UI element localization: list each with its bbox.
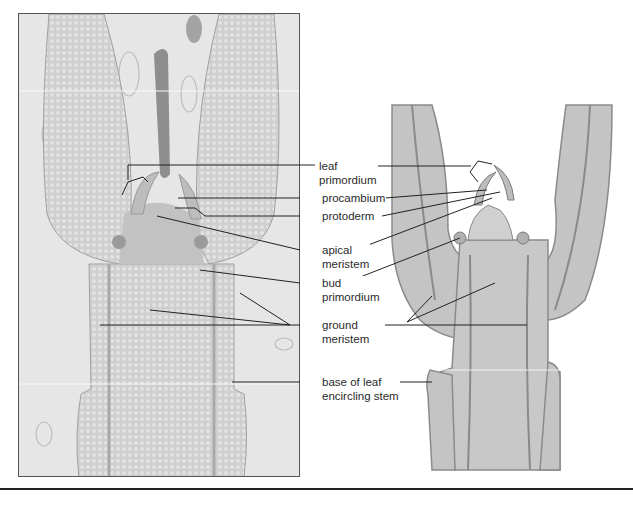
label-line: leaf	[319, 159, 377, 173]
label-line: procambium	[322, 191, 385, 205]
label-ground-meristem: ground meristem	[321, 318, 370, 346]
label-line: base of leaf	[322, 375, 399, 389]
label-line: meristem	[322, 257, 369, 271]
label-line: meristem	[322, 332, 369, 346]
label-procambium: procambium	[321, 191, 386, 205]
drawing-illustration	[0, 0, 633, 507]
label-line: bud	[322, 276, 380, 290]
label-line: encircling stem	[322, 389, 399, 403]
label-line: apical	[322, 243, 369, 257]
label-line: ground	[322, 318, 369, 332]
label-apical-meristem: apical meristem	[321, 243, 370, 271]
label-line: protoderm	[322, 209, 374, 223]
label-protoderm: protoderm	[321, 209, 375, 223]
label-line: primordium	[322, 290, 380, 304]
bottom-rule	[0, 488, 633, 490]
label-line: primordium	[319, 173, 377, 187]
label-bud-primordium: bud primordium	[321, 276, 381, 304]
label-base-of-leaf: base of leaf encircling stem	[321, 375, 400, 403]
label-leaf-primordium: leaf primordium	[318, 159, 378, 187]
